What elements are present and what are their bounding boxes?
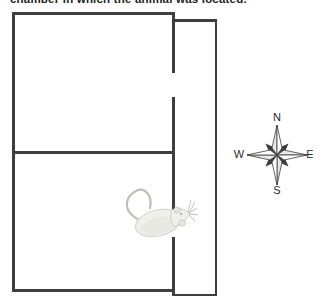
rat-ear-left: [174, 207, 180, 213]
apparatus-chamber-divider-wall: [12, 151, 175, 154]
apparatus-wall-top: [12, 12, 175, 15]
caption-text: chamber in which the animal was located.: [10, 0, 247, 5]
compass-rose-icon: [245, 123, 309, 187]
compass-label-south: S: [270, 184, 284, 196]
rat-whiskers: [188, 200, 198, 221]
apparatus-diagram: chamber in which the animal was located.: [0, 0, 326, 306]
corridor-wall-right: [215, 19, 218, 296]
rat-image: [121, 184, 199, 246]
compass-center-dot: [276, 154, 279, 157]
rat-ear-right: [179, 220, 185, 226]
corridor-wall-bottom: [172, 294, 217, 297]
compass-label-east: E: [303, 148, 317, 160]
compass-label-west: W: [231, 148, 247, 160]
apparatus-wall-bottom: [12, 289, 175, 292]
compass-label-north: N: [270, 111, 284, 123]
corridor-wall-top: [172, 19, 217, 22]
rat-eye: [180, 213, 182, 215]
